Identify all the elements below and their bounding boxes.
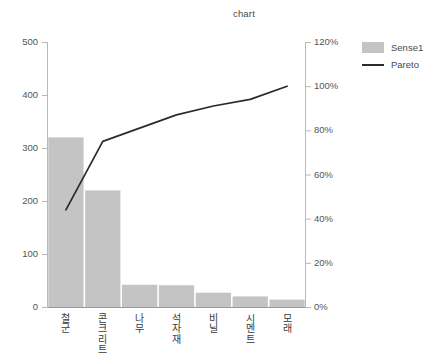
right-axis-tick-label: 100%: [314, 81, 354, 91]
left-axis-ticks: [42, 43, 48, 308]
pareto-chart: chart 0100200300400500 0%20%40%60%80%100…: [0, 0, 444, 364]
bar-series: [48, 137, 304, 307]
legend-swatch-icon: [362, 40, 384, 55]
right-axis-tick-label: 0%: [314, 302, 354, 312]
category-label: 모래: [269, 314, 305, 335]
bar: [85, 190, 120, 307]
right-axis-tick-label: 40%: [314, 214, 354, 224]
bar: [196, 293, 231, 307]
bar: [48, 137, 83, 307]
left-axis-tick-label: 0: [4, 302, 38, 312]
left-axis-tick-label: 100: [4, 249, 38, 259]
bar: [233, 296, 268, 307]
bar: [159, 285, 194, 307]
chart-legend: Sense1Pareto: [362, 40, 444, 74]
right-axis-tick-label: 60%: [314, 170, 354, 180]
left-axis-tick-label: 300: [4, 143, 38, 153]
left-axis-tick-label: 200: [4, 196, 38, 206]
right-axis-tick-label: 20%: [314, 258, 354, 268]
category-label: 콘크리트: [85, 314, 121, 356]
bar: [269, 300, 304, 307]
right-axis-ticks: [306, 43, 312, 308]
category-label: 석자재: [159, 314, 195, 345]
category-label: 시멘트: [232, 314, 268, 345]
category-label: 비닐: [195, 314, 231, 335]
legend-label: Sense1: [391, 42, 423, 53]
category-label: 철군: [48, 314, 84, 335]
right-axis-tick-label: 120%: [314, 37, 354, 47]
legend-item[interactable]: Sense1: [362, 40, 444, 55]
legend-line-icon: [362, 57, 384, 72]
right-axis-tick-label: 80%: [314, 125, 354, 135]
bar: [122, 285, 157, 307]
legend-item[interactable]: Pareto: [362, 57, 444, 72]
category-label: 나무: [122, 314, 158, 335]
left-axis-tick-label: 400: [4, 90, 38, 100]
legend-label: Pareto: [391, 59, 419, 70]
left-axis-tick-label: 500: [4, 37, 38, 47]
